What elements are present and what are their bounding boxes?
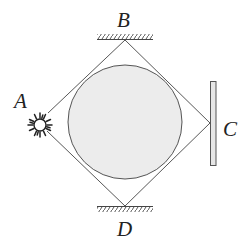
label-C: C xyxy=(223,117,238,141)
screen-C xyxy=(211,82,217,166)
surface-D xyxy=(97,207,153,213)
label-A: A xyxy=(12,89,27,113)
label-D: D xyxy=(116,217,132,241)
diagram-canvas: A B C D xyxy=(0,0,248,247)
sphere xyxy=(68,65,182,179)
surface-B xyxy=(97,34,153,40)
label-B: B xyxy=(117,8,130,32)
light-source-icon xyxy=(28,113,52,137)
